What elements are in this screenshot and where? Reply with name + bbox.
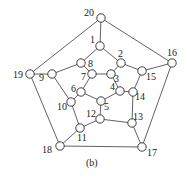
node-1: 1 <box>90 34 104 50</box>
node-label: 16 <box>167 47 177 58</box>
node-20: 20 <box>84 7 105 22</box>
edge-15-16 <box>142 63 172 71</box>
edge-8-9 <box>52 63 81 74</box>
node-label: 19 <box>13 69 23 80</box>
node-circle <box>97 14 105 22</box>
node-circle <box>138 67 146 75</box>
node-9: 9 <box>39 70 56 83</box>
node-6: 6 <box>71 83 85 96</box>
node-circle <box>26 70 34 78</box>
node-label: 4 <box>110 81 115 92</box>
node-16: 16 <box>167 47 177 67</box>
node-10: 10 <box>57 98 75 112</box>
node-circle <box>116 87 124 95</box>
edge-20-16 <box>101 18 172 63</box>
node-label: 5 <box>104 101 109 112</box>
node-label: 7 <box>81 71 86 82</box>
node-circle <box>77 59 85 67</box>
graph-diagram: 1234567891011121314151617181920 (b) <box>0 0 189 178</box>
node-label: 2 <box>118 48 123 59</box>
node-circle <box>48 70 56 78</box>
node-label: 18 <box>42 144 52 155</box>
node-15: 15 <box>138 67 156 82</box>
edge-17-18 <box>60 146 142 147</box>
node-label: 8 <box>88 58 93 69</box>
node-circle <box>88 70 96 78</box>
node-label: 9 <box>39 72 44 83</box>
node-label: 10 <box>57 101 67 112</box>
graph-edges <box>30 18 172 147</box>
node-14: 14 <box>129 88 145 102</box>
node-circle <box>76 124 84 132</box>
node-label: 13 <box>133 111 143 122</box>
node-19: 19 <box>13 69 34 80</box>
node-13: 13 <box>128 111 143 127</box>
node-circle <box>138 143 146 151</box>
node-17: 17 <box>138 143 157 158</box>
node-label: 15 <box>146 71 156 82</box>
node-label: 17 <box>147 147 157 158</box>
node-circle <box>77 88 85 96</box>
node-circle <box>96 42 104 50</box>
node-18: 18 <box>42 142 64 155</box>
figure-caption: (b) <box>86 157 98 169</box>
node-circle <box>168 59 176 67</box>
graph-nodes: 1234567891011121314151617181920 <box>13 7 177 158</box>
node-label: 1 <box>90 34 95 45</box>
node-5: 5 <box>97 97 109 112</box>
node-label: 11 <box>77 132 87 143</box>
node-2: 2 <box>117 48 125 67</box>
edge-10-9 <box>52 74 71 102</box>
node-circle <box>117 59 125 67</box>
node-11: 11 <box>76 124 87 143</box>
node-circle <box>56 142 64 150</box>
node-label: 12 <box>86 108 96 119</box>
node-label: 14 <box>135 91 145 102</box>
edge-19-18 <box>30 74 60 146</box>
node-circle <box>67 98 75 106</box>
node-circle <box>96 115 104 123</box>
node-label: 20 <box>84 7 94 18</box>
node-label: 6 <box>71 83 76 94</box>
edge-12-13 <box>100 119 132 123</box>
